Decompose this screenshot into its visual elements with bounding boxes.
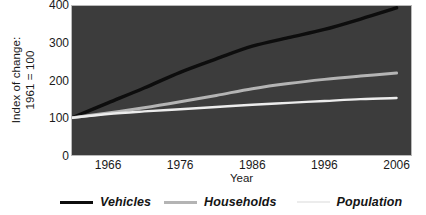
legend-label: Population [337,195,403,209]
x-tick-label: 1986 [227,158,277,172]
legend-label: Vehicles [100,195,151,209]
y-tick-label: 0 [43,150,69,162]
series-line-population [72,98,397,118]
chart-legend: Vehicles Households Population [60,192,420,212]
x-axis-title: Year [71,172,412,184]
x-tick-label: 1976 [155,158,205,172]
y-axis-title-line-1: Index of change: [10,37,22,124]
y-tick-label: 100 [43,112,69,124]
line-swatch-icon [60,201,93,204]
x-tick-label: 2006 [372,158,422,172]
legend-label: Households [204,195,277,209]
x-tick-label: 1966 [83,158,133,172]
x-tick-label: 1996 [299,158,349,172]
line-swatch-icon [164,201,197,204]
legend-item-households: Households [164,195,277,209]
line-chart-figure: Index of change: 1961 = 100 400 300 200 … [0,0,426,215]
y-tick-label: 300 [43,37,69,49]
plot-area [71,5,412,156]
y-tick-label: 200 [43,75,69,87]
y-axis-title-line-2: 1961 = 100 [23,37,37,124]
y-axis-tick-labels: 400 300 200 100 0 [40,0,69,160]
y-tick-label: 400 [43,0,69,11]
plot-lines [72,6,411,155]
series-line-vehicles [72,8,397,118]
legend-item-vehicles: Vehicles [60,195,151,209]
legend-item-population: Population [297,195,403,209]
line-swatch-icon [297,201,330,203]
series-line-households [72,73,397,118]
